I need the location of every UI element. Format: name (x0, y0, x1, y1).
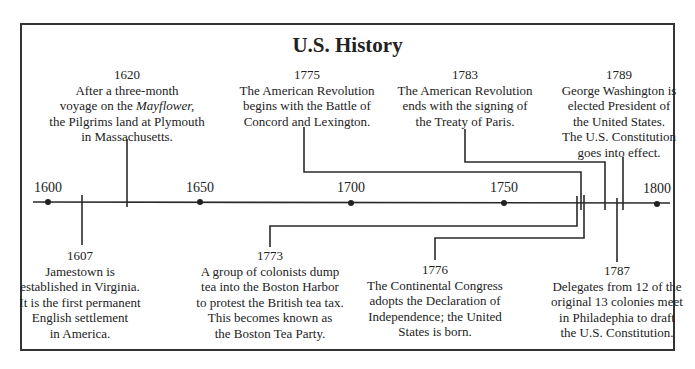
event-text-line: Delegates from 12 of the (551, 279, 683, 295)
event-1773: 1773 A group of colonists dump tea into … (196, 248, 343, 341)
event-year: 1607 (19, 248, 140, 264)
event-1607: 1607 Jamestown is established in Virgini… (19, 248, 140, 341)
event-text-line: The U.S. Constitution (562, 129, 677, 145)
event-text-line: adopts the Declaration of (367, 293, 503, 309)
event-text-line: the Treaty of Paris. (397, 114, 532, 130)
event-text-line: the United States. (562, 114, 677, 130)
event-year: 1789 (562, 67, 677, 83)
axis-dot-1700 (348, 200, 354, 206)
event-text-line: in America. (19, 326, 140, 342)
connector-1775 (304, 127, 581, 210)
axis-dot-1650 (197, 199, 203, 205)
event-year: 1773 (196, 248, 343, 264)
event-text-line: Jamestown is (19, 264, 140, 280)
event-text-line: The American Revolution (239, 83, 374, 99)
ship-name: Mayflower, (136, 98, 194, 113)
event-1789: 1789 George Washington is elected Presid… (562, 67, 677, 160)
event-text-line: It is the first permanent (19, 295, 140, 311)
connector-1776 (435, 195, 584, 260)
event-text-line: voyage on the Mayflower, (49, 98, 204, 114)
axis-dot-1600 (45, 199, 51, 205)
event-text-line: in Philadephia to draft (551, 310, 683, 326)
axis-dot-1800 (654, 201, 660, 207)
axis-dot-1750 (501, 200, 507, 206)
event-text-line: to protest the British tea tax. (196, 295, 343, 311)
axis-label-1600: 1600 (34, 180, 62, 196)
event-text-line: goes into effect. (562, 145, 677, 161)
event-text-line: The American Revolution (397, 83, 532, 99)
event-text-line: Independence; the United (367, 309, 503, 325)
event-1787: 1787 Delegates from 12 of the original 1… (551, 263, 683, 341)
event-year: 1787 (551, 263, 683, 279)
event-year: 1776 (367, 262, 503, 278)
event-1775: 1775 The American Revolution begins with… (239, 67, 374, 129)
event-text-line: in Massachusetts. (49, 129, 204, 145)
event-text-line: The Continental Congress (367, 278, 503, 294)
event-text-line: established in Virginia. (19, 279, 140, 295)
event-text-line: the Boston Tea Party. (196, 326, 343, 342)
event-text-line: ends with the signing of (397, 98, 532, 114)
event-text-line: original 13 colonies meet (551, 294, 683, 310)
event-text-line: This becomes known as (196, 310, 343, 326)
event-year: 1620 (49, 67, 204, 83)
event-year: 1783 (397, 67, 532, 83)
event-text-line: A group of colonists dump (196, 264, 343, 280)
event-text-line: tea into the Boston Harbor (196, 279, 343, 295)
event-1620: 1620 After a three-month voyage on the M… (49, 67, 204, 145)
connector-1773 (270, 196, 577, 247)
event-year: 1775 (239, 67, 374, 83)
axis-label-1800: 1800 (643, 181, 671, 197)
event-text-line: States is born. (367, 324, 503, 340)
axis-label-1650: 1650 (186, 180, 214, 196)
axis-label-1700: 1700 (337, 180, 365, 196)
event-text-line: English settlement (19, 310, 140, 326)
event-text-line: the Pilgrims land at Plymouth (49, 114, 204, 130)
event-1783: 1783 The American Revolution ends with t… (397, 67, 532, 129)
axis-label-1750: 1750 (490, 180, 518, 196)
event-text-line: Concord and Lexington. (239, 114, 374, 130)
event-text-line: the U.S. Constitution. (551, 325, 683, 341)
event-1776: 1776 The Continental Congress adopts the… (367, 262, 503, 340)
event-text-line: elected President of (562, 98, 677, 114)
event-text-line: After a three-month (49, 83, 204, 99)
event-text-line: George Washington is (562, 83, 677, 99)
event-text-line: begins with the Battle of (239, 98, 374, 114)
